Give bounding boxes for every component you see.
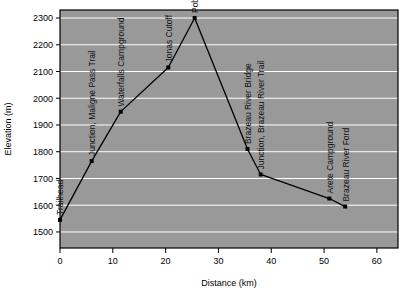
x-axis-tick-label-60: 60	[372, 256, 382, 266]
x-axis-title: Distance (km)	[201, 278, 257, 288]
x-axis-tick-label-40: 40	[266, 256, 276, 266]
data-point-label: Trailhead	[56, 180, 66, 215]
data-point-label: Brazeau River Ford	[341, 128, 351, 202]
data-point-marker[interactable]	[245, 147, 249, 151]
x-axis-tick-label-10: 10	[108, 256, 118, 266]
data-point-label: Arete Campground	[325, 121, 335, 193]
y-axis-title: Elevation (m)	[3, 102, 13, 155]
y-axis-tick-label-2300: 2300	[33, 13, 53, 23]
data-point-label: Poboktan Pass	[190, 0, 200, 13]
y-axis-tick-label-1500: 1500	[33, 227, 53, 237]
data-point-marker[interactable]	[90, 159, 94, 163]
y-axis-tick-label-1700: 1700	[33, 174, 53, 184]
chart-canvas: 1500160017001800190020002100220023000102…	[0, 0, 412, 302]
data-point-marker[interactable]	[343, 205, 347, 209]
data-point-marker[interactable]	[193, 16, 197, 20]
x-axis-tick-label-0: 0	[57, 256, 62, 266]
x-axis-tick-label-30: 30	[213, 256, 223, 266]
data-point-label: Jonas Cutoff	[164, 14, 174, 62]
x-axis-tick-label-50: 50	[319, 256, 329, 266]
data-point-marker[interactable]	[327, 197, 331, 201]
y-axis-tick-label-1800: 1800	[33, 147, 53, 157]
y-axis-tick-label-1600: 1600	[33, 201, 53, 211]
y-axis-tick-label-2200: 2200	[33, 40, 53, 50]
x-axis-tick-label-20: 20	[161, 256, 171, 266]
data-point-label: Waterfalls Campground	[116, 17, 126, 106]
data-point-marker[interactable]	[166, 65, 170, 69]
data-point-label: Brazeau River Bridge	[243, 63, 253, 144]
data-point-marker[interactable]	[58, 218, 62, 222]
data-point-label: Junction, Brazeau River Trail	[256, 61, 266, 170]
elevation-profile-chart: 1500160017001800190020002100220023000102…	[0, 0, 412, 302]
data-point-marker[interactable]	[119, 110, 123, 114]
data-point-label: Junction, Maligne Pass Trail	[87, 50, 97, 156]
y-axis-tick-label-2000: 2000	[33, 94, 53, 104]
y-axis-tick-label-1900: 1900	[33, 120, 53, 130]
y-axis-tick-label-2100: 2100	[33, 67, 53, 77]
data-point-marker[interactable]	[259, 172, 263, 176]
